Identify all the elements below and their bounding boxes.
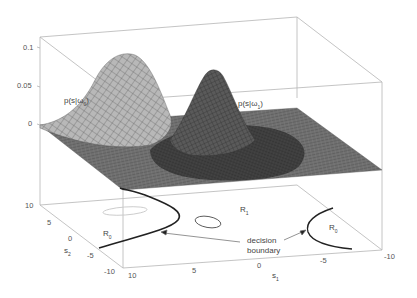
s2-tick-10: 10	[25, 202, 33, 210]
region-label-r0-left: R0	[103, 230, 112, 240]
z-tick-0-1: 0.1	[23, 44, 33, 52]
annotation-arrows	[161, 230, 306, 242]
z-tick-0: 0	[28, 120, 32, 128]
z-tick-0-05: 0.05	[17, 82, 32, 90]
figure-canvas	[0, 0, 417, 298]
region-label-r0-right: R0	[329, 224, 338, 234]
s1-tick-neg5: -5	[320, 257, 327, 265]
label-p-s-omega0: p(s|ω0)	[64, 97, 89, 107]
s2-axis-label: s2	[64, 247, 71, 257]
region-label-r1: R1	[240, 206, 249, 216]
s1-tick-5: 5	[192, 267, 196, 275]
s1-tick-neg10: -10	[384, 253, 395, 261]
label-p-s-omega1: p(s|ω1)	[238, 100, 263, 110]
s2-tick-5: 5	[47, 219, 51, 227]
contour-omega0	[103, 205, 147, 216]
surface-peak-omega0	[40, 54, 171, 147]
decision-boundary-annotation: decision boundary	[247, 236, 280, 256]
s1-tick-10: 10	[128, 272, 136, 280]
s2-tick-neg10: -10	[104, 268, 115, 276]
s2-tick-0: 0	[68, 235, 72, 243]
contour-omega1	[194, 214, 222, 229]
s1-tick-0: 0	[257, 262, 261, 270]
s2-tick-neg5: -5	[87, 252, 94, 260]
s1-axis-label: s1	[272, 272, 279, 282]
